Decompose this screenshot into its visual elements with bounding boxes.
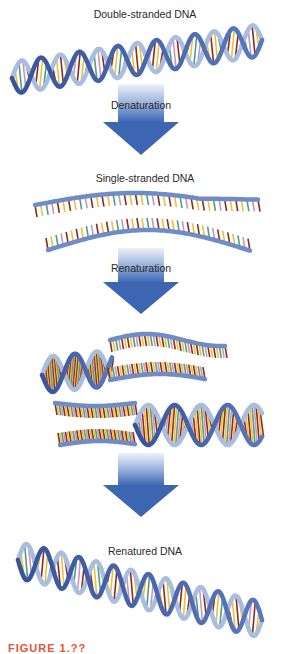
final-arrow — [103, 453, 179, 517]
double-stranded-dna-label: Double-stranded DNA — [60, 8, 230, 20]
renaturing-strand-pair-lower — [55, 403, 264, 445]
single-strand-upper — [35, 193, 260, 217]
single-stranded-dna-label: Single-stranded DNA — [60, 172, 230, 184]
figure-caption: FIGURE 1.?? — [8, 642, 86, 654]
denaturation-arrow — [103, 84, 179, 155]
renaturation-arrow — [103, 248, 179, 314]
single-strand-lower — [46, 218, 250, 251]
denaturation-label: Denaturation — [91, 99, 191, 111]
renatured-dna-helix — [17, 544, 264, 636]
double-stranded-dna-helix — [11, 25, 264, 92]
renatured-dna-label: Renatured DNA — [60, 545, 230, 557]
renaturation-label: Renaturation — [91, 262, 191, 274]
renaturing-strand-pair-upper — [41, 334, 228, 392]
